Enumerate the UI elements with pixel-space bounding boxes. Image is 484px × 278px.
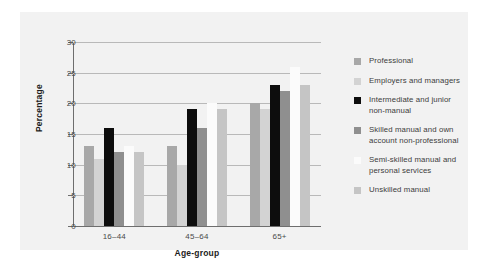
legend-item-label: Unskilled manual [369,185,430,196]
bar [207,103,217,226]
legend-item-label: Semi-skilled manual andpersonal services [369,155,456,176]
bar [177,165,187,226]
chart-legend: ProfessionalEmployers and managersInterm… [354,56,482,205]
plot-area: 051015202530 16–4445–6465+ Age-group [73,42,321,227]
x-axis-tick-label: 45–64 [156,232,239,241]
legend-item-label: Employers and managers [369,76,460,87]
bar [217,109,227,226]
legend-swatch-icon [354,58,361,65]
legend-swatch-icon [354,78,361,85]
bar [300,85,310,226]
chart-panel: 051015202530 16–4445–6465+ Age-group Per… [20,12,468,250]
y-axis-title: Percentage [34,84,44,132]
legend-item-label: Intermediate and juniornon-manual [369,95,451,116]
bar [187,109,197,226]
bar [290,67,300,226]
legend-item-label: Skilled manual and ownaccount non-profes… [369,125,459,146]
bar [104,128,114,226]
bar [197,128,207,226]
legend-swatch-icon [354,127,361,134]
legend-item: Intermediate and juniornon-manual [354,95,482,116]
bar [280,91,290,226]
legend-item: Unskilled manual [354,185,482,196]
legend-item-label: Professional [369,56,413,67]
bar [124,146,134,226]
legend-item: Employers and managers [354,76,482,87]
legend-item: Semi-skilled manual andpersonal services [354,155,482,176]
bar [94,159,104,226]
x-axis-tick-label: 65+ [238,232,321,241]
legend-swatch-icon [354,97,361,104]
bar-group: 45–64 [156,42,239,226]
x-axis-line [73,226,321,227]
bar [260,109,270,226]
bar-group: 65+ [238,42,321,226]
legend-swatch-icon [354,157,361,164]
bar-chart-figure: 051015202530 16–4445–6465+ Age-group Per… [0,0,484,278]
bar-group: 16–44 [73,42,156,226]
x-axis-tick-label: 16–44 [73,232,156,241]
legend-item: Professional [354,56,482,67]
bar [270,85,280,226]
x-axis-title: Age-group [73,248,321,258]
bar [84,146,94,226]
bar [114,152,124,226]
bar [167,146,177,226]
legend-swatch-icon [354,187,361,194]
legend-item: Skilled manual and ownaccount non-profes… [354,125,482,146]
bar [250,103,260,226]
bar [134,152,144,226]
